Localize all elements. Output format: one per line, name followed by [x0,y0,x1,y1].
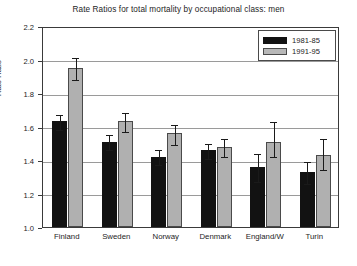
error-bar [323,139,324,171]
error-bar [274,122,275,157]
error-bar-cap-upper [254,154,261,155]
error-bar-cap-lower [270,157,277,158]
error-bar [60,115,61,130]
legend-item: 1991-95 [263,46,331,56]
error-bar-cap-upper [304,162,311,163]
y-tick-mark [38,228,42,229]
error-bar [175,125,176,145]
error-bar-cap-lower [155,165,162,166]
error-bar-cap-lower [106,150,113,151]
y-tick-label: 1.4 [0,157,34,166]
chart-container: Rate Ratios for total mortality by occup… [0,0,357,266]
legend-label: 1981-85 [292,36,320,45]
bar [52,121,67,227]
legend-swatch [263,48,287,55]
gridline [43,95,338,96]
bar [151,157,166,227]
error-bar-cap-lower [122,132,129,133]
error-bar-cap-lower [72,80,79,81]
error-bar [258,154,259,182]
y-tick-label: 2.0 [0,56,34,65]
error-bar-cap-upper [171,125,178,126]
error-bar-cap-lower [254,182,261,183]
bar [118,121,133,227]
bar [201,150,216,227]
legend: 1981-851991-95 [258,30,336,61]
error-bar-cap-upper [221,139,228,140]
error-bar [208,144,209,159]
bar [102,142,117,227]
x-tick-label: Denmark [199,232,231,241]
error-bar [109,135,110,150]
gridline [43,128,338,129]
x-tick-label: Norway [153,232,179,241]
gridline [43,162,338,163]
error-bar-cap-lower [205,159,212,160]
error-bar-cap-upper [270,122,277,123]
bar [217,147,232,227]
y-tick-label: 1.0 [0,224,34,233]
error-bar [224,139,225,157]
error-bar [159,150,160,165]
x-tick-label: England/W [246,232,284,241]
error-bar-cap-lower [221,157,228,158]
gridline [43,61,338,62]
y-tick-label: 1.6 [0,123,34,132]
legend-swatch [263,37,287,44]
error-bar-cap-upper [106,135,113,136]
error-bar-cap-upper [155,150,162,151]
error-bar-cap-lower [171,145,178,146]
error-bar-cap-lower [304,184,311,185]
chart-title: Rate Ratios for total mortality by occup… [0,5,357,14]
error-bar-cap-lower [56,130,63,131]
x-tick-label: Sweden [102,232,130,241]
legend-label: 1991-95 [292,47,320,56]
legend-item: 1981-85 [263,35,331,45]
error-bar [125,113,126,131]
error-bar-cap-lower [320,170,327,171]
error-bar-cap-upper [320,139,327,140]
y-tick-label: 2.2 [0,23,34,32]
gridline [43,195,338,196]
bar [68,68,83,227]
y-tick-label: 1.2 [0,190,34,199]
error-bar-cap-upper [72,58,79,59]
y-tick-label: 1.8 [0,90,34,99]
x-tick-label: Finland [54,232,80,241]
bar [167,133,182,227]
error-bar [76,58,77,80]
error-bar-cap-upper [205,144,212,145]
error-bar-cap-upper [56,115,63,116]
x-tick-label: Turin [306,232,323,241]
error-bar [307,162,308,184]
error-bar-cap-upper [122,113,129,114]
